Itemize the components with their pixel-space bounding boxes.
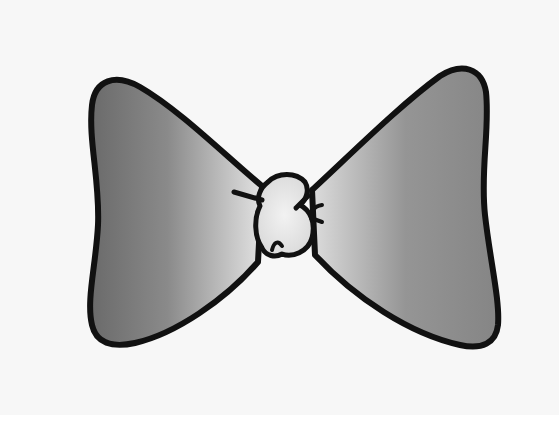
- bow-tie-illustration: [0, 0, 559, 438]
- bow-knot: [256, 175, 314, 257]
- bow-right-wing: [312, 69, 498, 347]
- illustration-canvas: [0, 0, 559, 438]
- bow-left-wing: [90, 80, 262, 345]
